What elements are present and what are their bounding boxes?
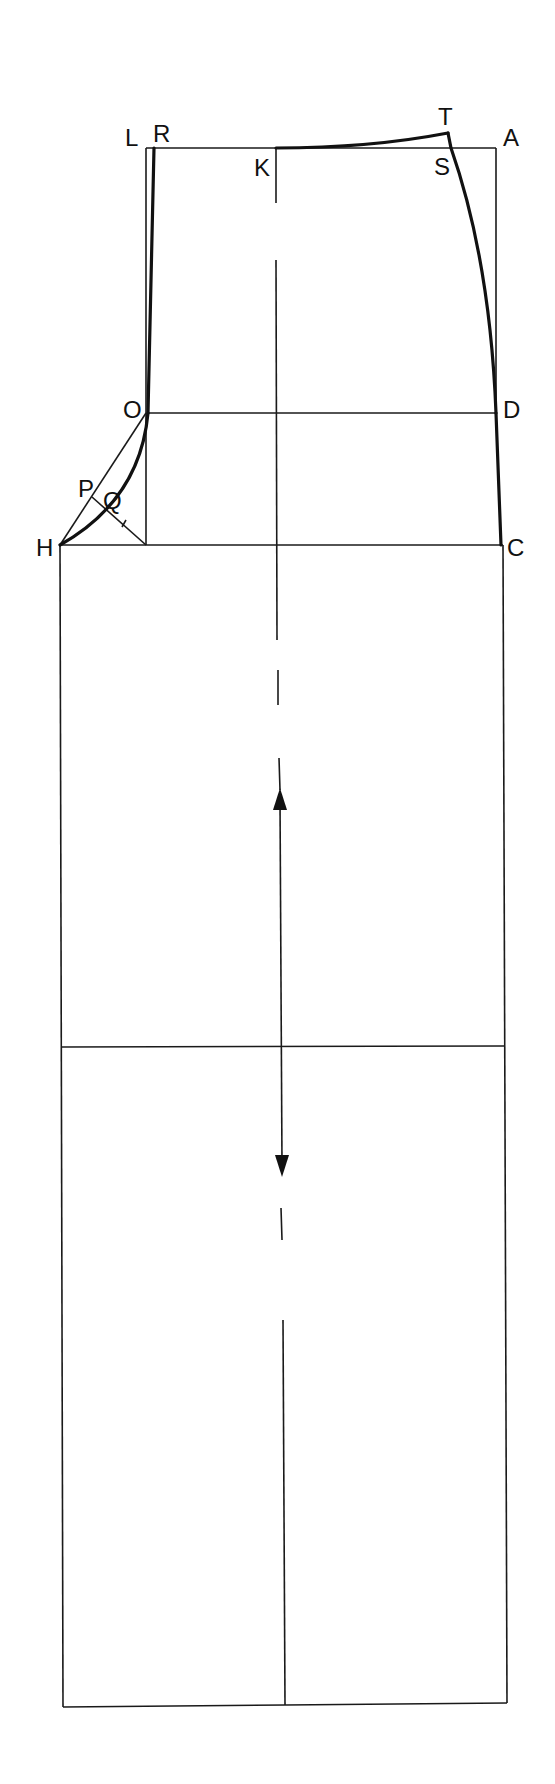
label-A: A xyxy=(503,124,519,151)
label-Q: Q xyxy=(103,487,122,514)
label-S: S xyxy=(434,153,450,180)
point-labels: L R K T S A O D P Q H C xyxy=(36,103,524,561)
crotch-construction xyxy=(60,413,146,545)
label-L: L xyxy=(125,124,138,151)
label-T: T xyxy=(438,103,453,130)
arrow-up-icon xyxy=(273,788,287,810)
grainline-arrow xyxy=(273,788,289,1177)
upper-block xyxy=(146,148,496,545)
label-D: D xyxy=(503,396,520,423)
pattern-diagram: L R K T S A O D P Q H C xyxy=(0,0,555,1784)
label-C: C xyxy=(507,534,524,561)
label-H: H xyxy=(36,534,53,561)
label-K: K xyxy=(254,154,270,181)
pattern-outline xyxy=(60,133,501,545)
label-R: R xyxy=(153,120,170,147)
label-O: O xyxy=(123,396,142,423)
arrow-down-icon xyxy=(275,1155,289,1177)
label-P: P xyxy=(78,475,94,502)
knee-line xyxy=(61,1046,504,1047)
